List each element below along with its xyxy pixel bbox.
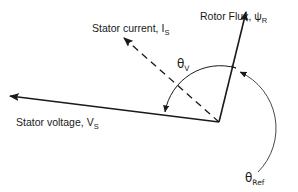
stator-voltage-symbol: V bbox=[87, 116, 94, 128]
rotor-flux-symbol: ψ bbox=[254, 10, 262, 22]
stator-voltage-label: Stator voltage, VS bbox=[16, 117, 99, 128]
theta-v-label: θV bbox=[177, 58, 189, 70]
theta-ref-subscript: Ref bbox=[252, 178, 264, 187]
stator-voltage-subscript: S bbox=[94, 122, 99, 131]
rotor-flux-label-text: Rotor Flux, bbox=[200, 10, 254, 22]
stator-current-vector bbox=[124, 38, 219, 122]
theta-v-subscript: V bbox=[184, 64, 189, 73]
theta-ref-arc bbox=[240, 72, 276, 172]
stator-voltage-label-text: Stator voltage, bbox=[16, 116, 87, 128]
stator-current-label-text: Stator current, bbox=[92, 22, 161, 34]
theta-ref-label: θRef bbox=[245, 172, 264, 184]
stator-current-label: Stator current, IS bbox=[92, 23, 169, 34]
rotor-flux-subscript: R bbox=[262, 16, 267, 25]
stator-current-subscript: S bbox=[164, 28, 169, 37]
rotor-flux-label: Rotor Flux, ψR bbox=[200, 11, 267, 22]
